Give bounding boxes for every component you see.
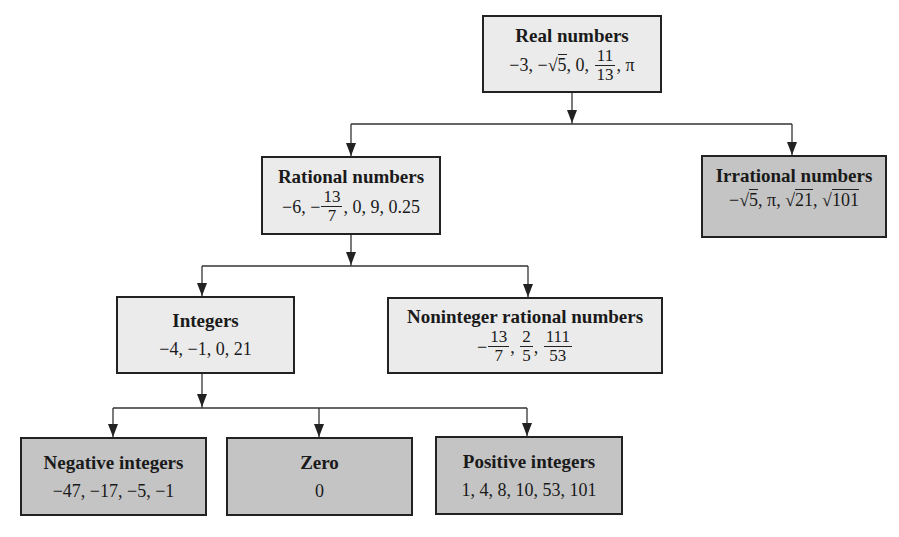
- fraction-13-7: 13 7: [321, 188, 342, 225]
- text: , π: [617, 54, 635, 76]
- node-irrational-numbers: Irrational numbers − √5 , π, √21 , √101: [701, 155, 887, 238]
- radicand: 21: [795, 189, 813, 210]
- node-negative-integers: Negative integers −47, −17, −5, −1: [20, 437, 207, 516]
- arrowheads: [108, 110, 797, 437]
- node-rational-numbers: Rational numbers −6, − 13 7 , 0, 9, 0.25: [261, 156, 441, 235]
- minus-sign: −: [477, 336, 487, 358]
- fraction-13-7: 13 7: [488, 328, 509, 365]
- denominator: 5: [520, 347, 533, 365]
- numerator: 111: [544, 328, 572, 347]
- node-title: Positive integers: [463, 451, 595, 473]
- text: ,: [534, 336, 543, 358]
- node-examples: − 13 7 , 2 5 , 111 53: [477, 328, 573, 365]
- node-title: Zero: [300, 452, 339, 474]
- denominator: 13: [595, 66, 616, 84]
- node-title: Real numbers: [515, 25, 628, 47]
- sqrt-21: √21: [785, 189, 813, 211]
- node-examples: −3, − √5 , 0, 11 13 , π: [509, 47, 634, 84]
- minus-sign: −: [729, 189, 739, 211]
- sqrt-101: √101: [822, 189, 859, 211]
- sqrt-5: √5: [739, 189, 758, 211]
- fraction-11-13: 11 13: [595, 47, 616, 84]
- denominator: 7: [492, 347, 505, 365]
- radicand: 5: [749, 189, 758, 210]
- node-title: Negative integers: [44, 452, 184, 474]
- node-examples: 0: [315, 480, 324, 502]
- numerator: 13: [488, 328, 509, 347]
- node-zero: Zero 0: [226, 437, 413, 516]
- node-examples: −47, −17, −5, −1: [53, 480, 175, 502]
- numerator: 2: [520, 328, 533, 347]
- sqrt-5: √5: [548, 54, 567, 76]
- text: −3,: [509, 54, 537, 76]
- node-integers: Integers −4, −1, 0, 21: [116, 296, 295, 374]
- minus-sign: −: [538, 54, 548, 76]
- radicand: 101: [832, 189, 859, 210]
- node-title: Integers: [172, 310, 238, 332]
- node-examples: 1, 4, 8, 10, 53, 101: [462, 479, 597, 501]
- fraction-111-53: 111 53: [544, 328, 572, 365]
- node-examples: −4, −1, 0, 21: [159, 338, 251, 360]
- node-positive-integers: Positive integers 1, 4, 8, 10, 53, 101: [435, 436, 623, 515]
- numerator: 11: [595, 47, 615, 66]
- text: , 0,: [567, 54, 594, 76]
- text: , 0, 9, 0.25: [343, 196, 420, 218]
- denominator: 7: [326, 207, 339, 225]
- text: ,: [510, 336, 519, 358]
- denominator: 53: [547, 347, 568, 365]
- node-examples: − √5 , π, √21 , √101: [729, 189, 859, 211]
- numerator: 13: [321, 188, 342, 207]
- node-title: Irrational numbers: [716, 165, 873, 187]
- node-examples: −6, − 13 7 , 0, 9, 0.25: [282, 188, 420, 225]
- text: , π,: [758, 189, 785, 211]
- node-title: Rational numbers: [278, 166, 424, 188]
- node-title: Noninteger rational numbers: [407, 306, 643, 328]
- text: −6, −: [282, 196, 320, 218]
- text: ,: [813, 189, 822, 211]
- fraction-2-5: 2 5: [520, 328, 533, 365]
- node-noninteger-rational-numbers: Noninteger rational numbers − 13 7 , 2 5…: [387, 297, 663, 374]
- radicand: 5: [558, 54, 567, 75]
- node-real-numbers: Real numbers −3, − √5 , 0, 11 13 , π: [482, 15, 662, 93]
